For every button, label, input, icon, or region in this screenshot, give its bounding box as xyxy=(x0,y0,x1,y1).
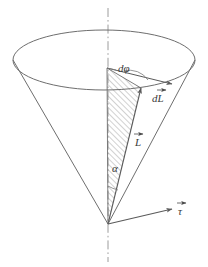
figure-background xyxy=(0,0,208,267)
label-dL: dL xyxy=(152,92,164,104)
cone-diagram: dφ dL L α τ xyxy=(0,0,208,267)
figure-container: dφ dL L α τ xyxy=(0,0,208,267)
label-L: L xyxy=(134,136,141,148)
label-alpha: α xyxy=(112,162,118,174)
label-dphi: dφ xyxy=(118,62,130,74)
